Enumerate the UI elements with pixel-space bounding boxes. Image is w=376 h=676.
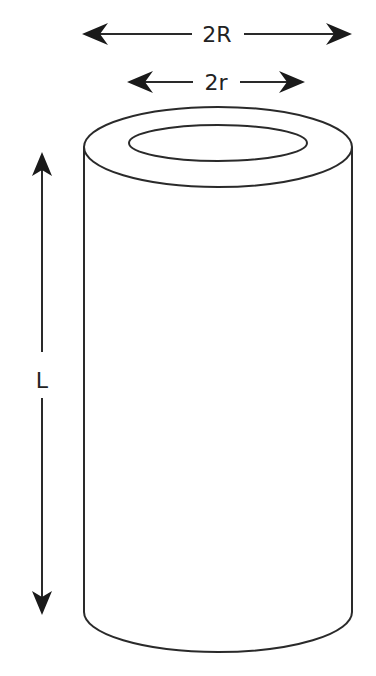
length-label: L: [36, 368, 49, 393]
outer-diameter-dimension: 2R: [82, 22, 352, 47]
hollow-cylinder-diagram: 2R 2r L: [0, 0, 376, 676]
inner-diameter-label: 2r: [204, 70, 228, 95]
inner-bore-ellipse: [129, 125, 307, 161]
outer-top-ellipse: [84, 107, 352, 187]
outer-diameter-label: 2R: [202, 22, 231, 47]
hollow-cylinder: [84, 107, 352, 652]
length-dimension: L: [32, 152, 52, 615]
bottom-arc: [84, 612, 352, 652]
inner-diameter-dimension: 2r: [127, 70, 305, 95]
